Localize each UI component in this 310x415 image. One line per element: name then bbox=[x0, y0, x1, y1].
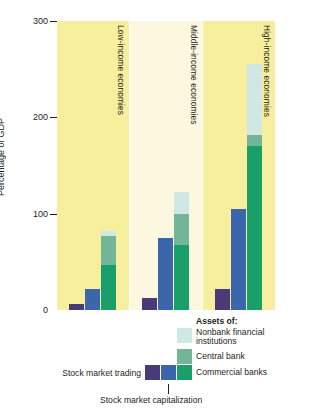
seg-commercial-banks-high bbox=[247, 146, 262, 310]
bar-stock-trading-high bbox=[215, 289, 230, 310]
y-tick-mark-300 bbox=[50, 21, 57, 22]
seg-central-bank-high bbox=[247, 135, 262, 147]
legend-heading: Assets of: bbox=[196, 316, 238, 326]
legend-label-nonbank: Nonbank financial institutions bbox=[196, 328, 282, 347]
bar-stock-trading-low bbox=[69, 304, 84, 310]
bar-assets-stack-low bbox=[101, 231, 116, 310]
legend-label-commercial-banks: Commercial banks bbox=[196, 368, 267, 377]
panel-high-income: High-income economies bbox=[203, 21, 275, 310]
seg-commercial-banks-middle bbox=[174, 245, 189, 310]
y-tick-mark-100 bbox=[50, 214, 57, 215]
y-tick-mark-200 bbox=[50, 117, 57, 118]
bar-group-middle-income bbox=[130, 21, 202, 310]
legend-pointer-line bbox=[168, 384, 169, 394]
seg-central-bank-middle bbox=[174, 214, 189, 246]
legend-label-stock-trading: Stock market trading bbox=[48, 368, 141, 378]
y-tick-label-100: 100 bbox=[14, 209, 48, 219]
panel-low-income: Low-income economies bbox=[57, 21, 129, 310]
legend-swatch-stock-capitalization bbox=[161, 365, 176, 380]
seg-central-bank-low bbox=[101, 236, 116, 265]
seg-nonbank-middle bbox=[174, 192, 189, 213]
bar-stock-trading-middle bbox=[142, 298, 157, 310]
legend-label-stock-capitalization: Stock market capitalization bbox=[100, 396, 202, 405]
legend-swatch-nonbank bbox=[177, 328, 192, 343]
bar-group-high-income bbox=[203, 21, 275, 310]
chart-figure: Percentage of GDP 300 200 100 0 Low-inco… bbox=[0, 0, 310, 415]
bar-assets-stack-middle bbox=[174, 192, 189, 310]
legend-swatch-stock-trading bbox=[145, 365, 160, 380]
bar-stock-cap-high bbox=[231, 209, 246, 310]
panel-middle-income: Middle-income economies bbox=[130, 21, 202, 310]
legend-swatch-central-bank bbox=[177, 349, 192, 364]
bar-stock-cap-low bbox=[85, 289, 100, 310]
bar-assets-stack-high bbox=[247, 64, 262, 310]
plot-area: Low-income economies Middle-income econo… bbox=[57, 21, 275, 310]
y-tick-label-300: 300 bbox=[14, 16, 48, 26]
seg-nonbank-low bbox=[101, 231, 116, 236]
bar-group-low-income bbox=[57, 21, 129, 310]
legend-label-central-bank: Central bank bbox=[196, 352, 245, 361]
y-axis-label: Percentage of GDP bbox=[0, 118, 6, 196]
y-tick-label-200: 200 bbox=[14, 112, 48, 122]
y-tick-label-0: 0 bbox=[14, 305, 48, 315]
legend-swatch-commercial-banks bbox=[177, 365, 192, 380]
bar-stock-cap-middle bbox=[158, 238, 173, 310]
seg-nonbank-high bbox=[247, 64, 262, 134]
seg-commercial-banks-low bbox=[101, 265, 116, 310]
